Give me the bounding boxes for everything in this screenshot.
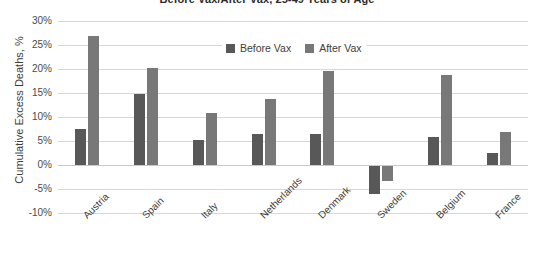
legend-entry-before-vax: Before Vax	[226, 42, 291, 54]
y-axis-tick-label: 30%	[14, 16, 52, 26]
bar-group	[58, 21, 117, 213]
bar	[193, 140, 204, 165]
y-axis-tick-label: -10%	[14, 208, 52, 218]
chart-title: Before Vax/After Vax, 25-49 Years of Age	[0, 0, 534, 5]
chart-legend: Before Vax After Vax	[222, 40, 366, 56]
legend-label: After Vax	[319, 42, 361, 54]
bar	[206, 113, 217, 165]
bar-group	[469, 21, 528, 213]
legend-label: Before Vax	[240, 42, 291, 54]
zero-axis-line	[58, 165, 528, 166]
legend-swatch-icon	[226, 44, 235, 53]
y-axis-tick-label: 5%	[14, 136, 52, 146]
bar	[134, 94, 145, 165]
bar	[441, 75, 452, 165]
legend-entry-after-vax: After Vax	[305, 42, 361, 54]
bar	[310, 134, 321, 165]
bar	[147, 68, 158, 165]
x-axis-tick-labels: AustriaSpainItalyNetherlandsDenmarkSwede…	[58, 213, 528, 274]
bar	[75, 129, 86, 165]
y-axis-tick-label: 10%	[14, 112, 52, 122]
y-axis-tick-label: 15%	[14, 88, 52, 98]
bar-chart: Before Vax/After Vax, 25-49 Years of Age…	[0, 0, 534, 274]
bar	[252, 134, 263, 165]
bar	[369, 165, 380, 194]
bar	[382, 165, 393, 181]
bar-group	[117, 21, 176, 213]
bar	[487, 153, 498, 165]
bar	[323, 71, 334, 165]
y-axis-tick-label: 25%	[14, 40, 52, 50]
bar	[428, 137, 439, 165]
bar	[265, 99, 276, 165]
y-axis-tick-label: 20%	[14, 64, 52, 74]
bar	[500, 132, 511, 165]
bar-group	[411, 21, 470, 213]
legend-swatch-icon	[305, 44, 314, 53]
y-axis-tick-label: 0%	[14, 160, 52, 170]
bar	[88, 36, 99, 165]
y-axis-tick-label: -5%	[14, 184, 52, 194]
